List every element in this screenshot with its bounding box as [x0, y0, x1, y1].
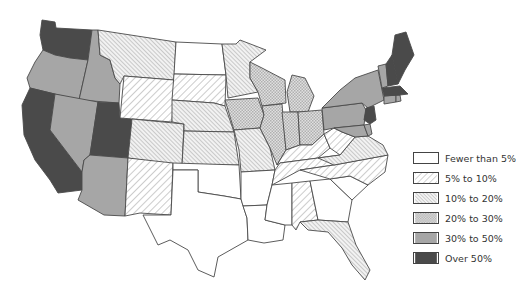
state-ma [382, 86, 408, 96]
swatch-light-gray-icon [413, 232, 439, 244]
swatch-dense-hatch-icon [413, 192, 439, 204]
legend-item-fewer-than-5: Fewer than 5% [413, 148, 505, 168]
legend-item-over-50: Over 50% [413, 248, 505, 268]
legend-item-10-to-20: 10% to 20% [413, 188, 505, 208]
swatch-white-icon [413, 152, 439, 164]
swatch-wide-hatch-icon [413, 172, 439, 184]
legend-item-5-to-10: 5% to 10% [413, 168, 505, 188]
map-legend: Fewer than 5% 5% to 10% 10% to 20% 20% t… [413, 148, 505, 268]
legend-label: 5% to 10% [445, 173, 497, 184]
state-ri [396, 95, 401, 102]
legend-label: 20% to 30% [445, 213, 503, 224]
state-mi [287, 75, 314, 112]
state-ct [384, 95, 396, 104]
legend-label: 30% to 50% [445, 233, 503, 244]
state-ny [322, 70, 384, 108]
state-wy [120, 76, 174, 122]
legend-item-30-to-50: 30% to 50% [413, 228, 505, 248]
legend-item-20-to-30: 20% to 30% [413, 208, 505, 228]
state-nm [125, 158, 173, 216]
legend-label: Over 50% [445, 253, 492, 264]
swatch-dark-gray-icon [413, 252, 439, 264]
legend-label: Fewer than 5% [445, 153, 516, 164]
state-ks [182, 131, 239, 165]
state-nj [364, 106, 376, 124]
state-fl [300, 220, 370, 280]
swatch-dots-icon [413, 212, 439, 224]
state-nd [174, 42, 226, 75]
legend-label: 10% to 20% [445, 193, 503, 204]
state-az [78, 155, 128, 216]
